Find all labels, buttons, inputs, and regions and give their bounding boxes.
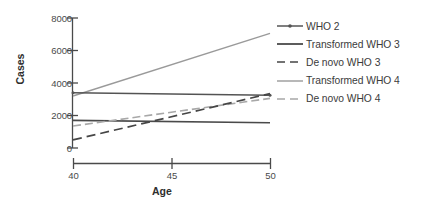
series-line-de-novo-who-3 (73, 94, 270, 140)
series-line-who-2 (73, 93, 270, 95)
legend-label-who-2: WHO 2 (306, 21, 340, 32)
legend-item-who-2[interactable]: WHO 2 (277, 17, 425, 35)
y-tick-label-2000: 2000 (32, 110, 72, 121)
y-axis-title: Cases (14, 54, 26, 85)
x-tick-label-40: 40 (59, 170, 89, 181)
chart-figure: 8000 6000 4000 2000 0 40 45 50 Cases Age… (0, 0, 425, 213)
y-tick-label-4000: 4000 (32, 78, 72, 89)
legend-label-transformed-who-3: Transformed WHO 3 (306, 39, 400, 50)
legend-item-transformed-who-3[interactable]: Transformed WHO 3 (277, 35, 425, 53)
series-line-transformed-who-4 (73, 33, 270, 96)
legend-item-transformed-who-4[interactable]: Transformed WHO 4 (277, 72, 425, 90)
legend-swatch-who-2-icon (277, 20, 303, 32)
legend-item-de-novo-who-4[interactable]: De novo WHO 4 (277, 90, 425, 108)
y-tick-label-8000: 8000 (32, 13, 72, 24)
legend-swatch-de-novo-who-4-icon (277, 93, 303, 105)
legend-swatch-transformed-who-4-icon (277, 75, 303, 87)
y-tick-label-0: 0 (32, 143, 72, 154)
series-marker-who-2-start (72, 91, 75, 94)
legend-label-transformed-who-4: Transformed WHO 4 (306, 75, 400, 86)
legend-label-de-novo-who-4: De novo WHO 4 (306, 93, 380, 104)
x-tick-label-45: 45 (157, 170, 187, 181)
x-axis-title: Age (152, 185, 172, 197)
chart-legend: WHO 2 Transformed WHO 3 De novo WHO 3 (277, 17, 425, 108)
legend-label-de-novo-who-3: De novo WHO 3 (306, 57, 380, 68)
legend-item-de-novo-who-3[interactable]: De novo WHO 3 (277, 53, 425, 71)
y-tick-label-6000: 6000 (32, 45, 72, 56)
legend-swatch-de-novo-who-3-icon (277, 56, 303, 68)
x-tick-label-50: 50 (256, 170, 286, 181)
legend-swatch-transformed-who-3-icon (277, 38, 303, 50)
